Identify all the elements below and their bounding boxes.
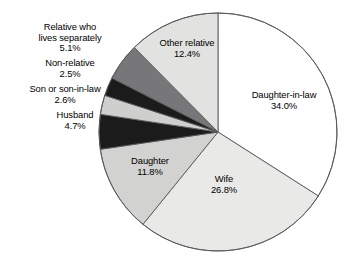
slice-label-line: Daughter [114, 156, 186, 167]
slice-label-line: Husband [24, 110, 126, 121]
slice-label-line: Daughter-in-law [232, 90, 336, 101]
slice-label-line: Other relative [141, 38, 233, 49]
slice-value: 34.0% [232, 101, 336, 112]
slice-label-line: Wife [193, 174, 255, 185]
pie-chart-figure: Relative who lives separately 5.1% Non-r… [0, 0, 354, 266]
slice-value: 11.8% [114, 167, 186, 178]
slice-label-non-relative: Non-relative 2.5% [14, 58, 126, 79]
slice-value: 5.1% [14, 43, 126, 54]
slice-value: 26.8% [193, 185, 255, 196]
slice-label-line: Relative who [14, 22, 126, 33]
slice-label-other-relative: Other relative 12.4% [141, 38, 233, 59]
slice-label-relative-who-lives-separately: Relative who lives separately 5.1% [14, 22, 126, 54]
slice-value: 12.4% [141, 49, 233, 60]
slice-value: 4.7% [24, 121, 126, 132]
slice-label-son-or-son-in-law: Son or son-in-law 2.6% [4, 84, 126, 105]
slice-label-daughter-in-law: Daughter-in-law 34.0% [232, 90, 336, 111]
slice-label-husband: Husband 4.7% [24, 110, 126, 131]
slice-label-line: Non-relative [14, 58, 126, 69]
slice-label-wife: Wife 26.8% [193, 174, 255, 195]
slice-label-daughter: Daughter 11.8% [114, 156, 186, 177]
slice-label-line: Son or son-in-law [4, 84, 126, 95]
slice-value: 2.6% [4, 95, 126, 106]
slice-value: 2.5% [14, 69, 126, 80]
